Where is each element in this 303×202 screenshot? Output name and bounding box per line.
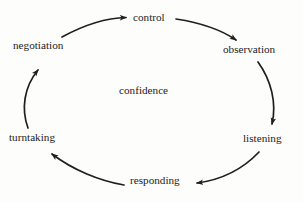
cycle-diagram-figure: —— —— ——— ———— negotiation control obser…: [0, 0, 303, 202]
edge-negotiation-to-control: [62, 18, 126, 38]
node-label-negotiation: negotiation: [13, 40, 63, 51]
node-label-turntaking: turntaking: [9, 132, 55, 143]
center-label-confidence: confidence: [119, 85, 168, 96]
node-label-responding: responding: [130, 175, 180, 186]
node-label-observation: observation: [223, 44, 275, 55]
node-label-listening: listening: [243, 133, 282, 144]
edge-turntaking-to-negotiation: [24, 70, 38, 128]
node-label-control: control: [133, 12, 165, 23]
edge-observation-to-listening: [258, 62, 274, 124]
edge-control-to-observation: [176, 19, 236, 40]
edge-responding-to-turntaking: [52, 154, 124, 185]
edge-listening-to-responding: [197, 152, 259, 183]
cycle-arrows: [0, 0, 303, 202]
